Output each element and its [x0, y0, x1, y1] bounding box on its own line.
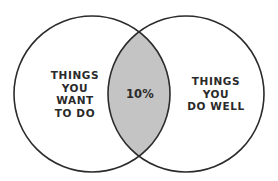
right-set-label: THINGS YOU DO WELL: [175, 75, 257, 113]
left-set-label: THINGS YOU WANT TO DO: [35, 69, 115, 119]
left-label-line: TO DO: [35, 107, 115, 120]
left-label-line: YOU: [35, 82, 115, 95]
overlap-percentage-label: 10%: [120, 88, 160, 101]
left-label-line: WANT: [35, 94, 115, 107]
right-label-line: THINGS: [175, 75, 257, 88]
right-label-line: DO WELL: [175, 100, 257, 113]
right-label-line: YOU: [175, 88, 257, 101]
left-label-line: THINGS: [35, 69, 115, 82]
